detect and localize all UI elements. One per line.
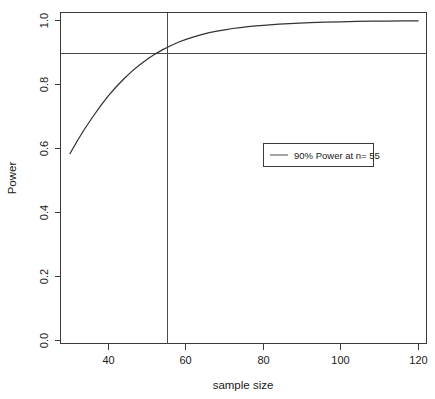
x-tick-label-40: 40 (102, 354, 114, 366)
x-tick-label-100: 100 (331, 354, 349, 366)
y-axis-title: Power (6, 162, 18, 195)
y-tick-label-0.6: 0.6 (38, 141, 50, 156)
chart-canvas: 1.0 0.8 0.6 0.4 0.2 0.0 40 60 80 100 120… (0, 0, 435, 399)
x-tick-label-120: 120 (409, 354, 427, 366)
x-tick-label-60: 60 (179, 354, 191, 366)
y-tick-label-1.0: 1.0 (38, 13, 50, 28)
y-tick-label-0.0: 0.0 (38, 333, 50, 348)
y-tick-label-0.2: 0.2 (38, 269, 50, 284)
y-tick-label-0.4: 0.4 (38, 205, 50, 220)
legend-label: 90% Power at n= 55 (294, 150, 380, 161)
x-axis-title: sample size (213, 379, 274, 391)
x-tick-label-80: 80 (257, 354, 269, 366)
power-curve-chart: 1.0 0.8 0.6 0.4 0.2 0.0 40 60 80 100 120… (0, 0, 435, 399)
chart-background (0, 0, 435, 399)
legend[interactable]: 90% Power at n= 55 (264, 144, 380, 167)
y-tick-label-0.8: 0.8 (38, 77, 50, 92)
